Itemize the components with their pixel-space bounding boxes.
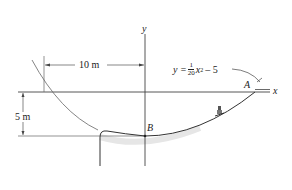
parabola-equation: y = 1 20 x2 – 5 xyxy=(173,62,218,77)
arrow-right xyxy=(139,64,144,67)
eq-lhs: y = xyxy=(173,64,187,75)
arrow-left xyxy=(45,64,50,67)
dim-10m-label: 10 m xyxy=(79,60,99,70)
eq-fraction: 1 20 xyxy=(188,62,195,77)
arrow-up xyxy=(22,93,25,97)
point-a-label: A xyxy=(244,80,250,90)
point-b-label: B xyxy=(147,123,153,133)
eq-denominator: 20 xyxy=(188,70,195,77)
y-axis-label: y xyxy=(142,24,146,34)
left-curve xyxy=(32,60,98,130)
dim-5m-label: 5 m xyxy=(15,112,30,122)
eq-exponent: 2 xyxy=(200,67,203,73)
point-b-dot xyxy=(144,135,147,138)
eq-rest: – 5 xyxy=(205,64,218,75)
x-axis-label: x xyxy=(273,86,277,96)
arrow-down xyxy=(22,131,25,135)
